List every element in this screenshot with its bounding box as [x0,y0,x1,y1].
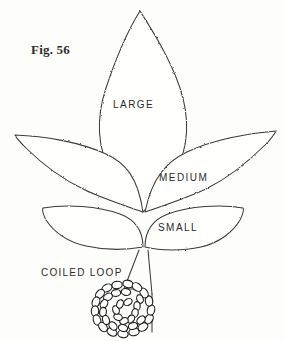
leaf-label-small: SMALL [158,222,198,233]
coiled-loop-label: COILED LOOP [41,267,123,278]
figure-illustration: Fig. 56 LARGE MEDIUM SMALL COILED LOOP [0,0,285,341]
small-leaf-left [43,206,143,249]
leaf-label-medium: MEDIUM [159,172,208,183]
coiled-loop [91,279,156,338]
leaf-label-large: LARGE [113,99,154,110]
figure-caption: Fig. 56 [31,42,70,58]
